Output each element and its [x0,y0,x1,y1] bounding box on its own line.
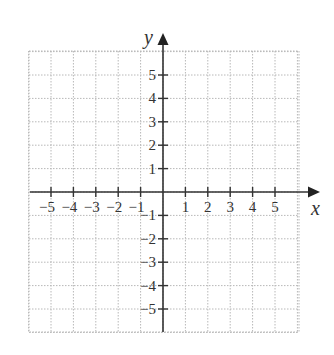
x-tick-label: −2 [106,199,122,215]
y-tick-label: −4 [140,278,156,294]
y-tick-label: 5 [149,67,157,83]
y-tick-label: 3 [149,114,157,130]
coordinate-plane: −5−4−3−2−11234554321−1−2−3−4−5 x y [0,0,334,355]
x-tick-label: 2 [204,199,212,215]
y-tick-label: −3 [140,254,156,270]
x-tick-label: 1 [182,199,190,215]
x-tick-label: −3 [84,199,100,215]
x-axis-arrow-icon [308,187,320,198]
y-axis-label: y [142,26,153,49]
y-tick-label: −2 [140,231,156,247]
y-tick-label: −1 [140,207,156,223]
x-tick-label: −5 [39,199,55,215]
axes [30,33,320,332]
x-tick-label: −4 [61,199,77,215]
y-tick-label: −5 [140,301,156,317]
x-axis-label: x [310,197,320,219]
y-tick-label: 2 [149,137,157,153]
x-tick-label: 3 [226,199,234,215]
x-tick-label: 5 [271,199,279,215]
y-axis-arrow-icon [158,33,169,45]
y-tick-label: 1 [149,161,157,177]
x-tick-label: 4 [249,199,257,215]
y-tick-label: 4 [149,90,157,106]
